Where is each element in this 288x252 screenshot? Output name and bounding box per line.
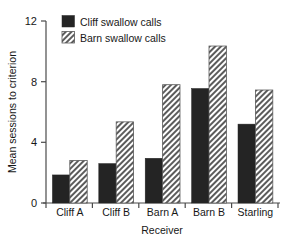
y-tick-label-0: 0: [31, 197, 37, 209]
bar-cliff-b-cliff-swallow: [99, 164, 116, 203]
legend-label-barn-swallow: Barn swallow calls: [80, 32, 166, 44]
bar-barn-b-cliff-swallow: [192, 88, 209, 203]
bar-starling-barn-swallow: [255, 90, 272, 203]
y-axis-ticks: [41, 21, 46, 203]
bar-cliff-b-barn-swallow: [116, 122, 133, 203]
bar-cliff-a-barn-swallow: [70, 161, 87, 203]
bar-barn-a-barn-swallow: [163, 85, 180, 203]
x-cat-label-barn-b: Barn B: [193, 206, 225, 218]
y-axis-title: Mean sessions to criterion: [6, 51, 18, 173]
x-axis-title: Receiver: [141, 224, 183, 236]
bar-barn-a-cliff-swallow: [145, 158, 162, 203]
x-cat-label-cliff-a: Cliff A: [56, 206, 83, 218]
bar-cliff-a-cliff-swallow: [52, 175, 69, 203]
bar-chart: 0 4 8 12 Mean sessions to criterion: [0, 0, 288, 252]
legend-label-cliff-swallow: Cliff swallow calls: [80, 16, 162, 28]
x-cat-label-cliff-b: Cliff B: [102, 206, 130, 218]
bar-starling-cliff-swallow: [238, 124, 255, 203]
y-tick-label-12: 12: [25, 15, 37, 27]
y-tick-label-8: 8: [31, 76, 37, 88]
legend-swatch-cliff-swallow: [62, 16, 75, 28]
chart-container: 0 4 8 12 Mean sessions to criterion: [0, 0, 288, 252]
x-cat-label-barn-a: Barn A: [147, 206, 179, 218]
y-tick-label-4: 4: [31, 136, 37, 148]
bar-barn-b-barn-swallow: [209, 46, 226, 203]
legend-swatch-barn-swallow: [62, 32, 75, 44]
x-cat-label-starling: Starling: [238, 206, 274, 218]
